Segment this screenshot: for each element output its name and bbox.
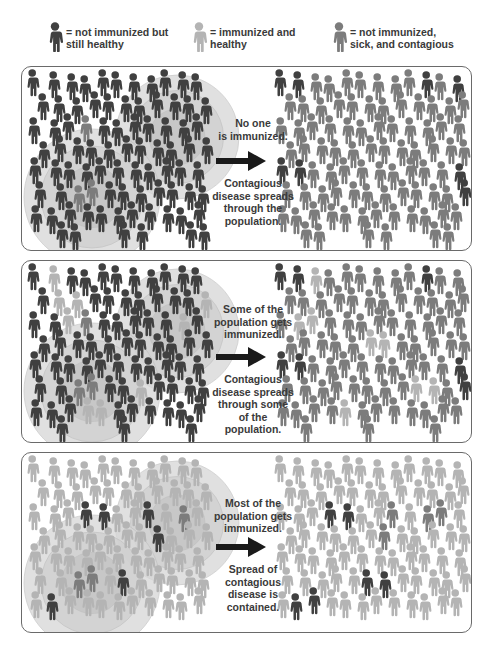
person-figure-immunized-healthy xyxy=(310,459,322,486)
person-figure-unimmunized-healthy xyxy=(27,263,39,290)
person-figure-sick xyxy=(437,395,449,422)
person-figure-unimmunized-healthy xyxy=(294,353,306,380)
person-figure-immunized-healthy xyxy=(397,565,409,592)
person-figure-sick xyxy=(435,113,447,140)
person-figure-sick xyxy=(330,373,342,400)
person-figure-immunized-healthy xyxy=(421,457,433,484)
person-figure-sick xyxy=(434,73,446,100)
legend-sick-contagious: = not immunized,sick, and contagious xyxy=(331,22,454,52)
person-figure-immunized-healthy xyxy=(434,459,446,486)
person-figure-immunized-healthy xyxy=(458,525,470,552)
person-figure-immunized-healthy xyxy=(110,457,122,484)
person-figure-immunized-healthy xyxy=(306,499,318,526)
person-figure-immunized-healthy xyxy=(457,477,469,504)
person-figure-unimmunized-healthy xyxy=(294,159,306,186)
person-figure-immunized-healthy xyxy=(330,565,342,592)
person-figure-sick xyxy=(342,311,354,338)
person-figure-immunized-healthy xyxy=(453,501,465,528)
person-figure-immunized-healthy xyxy=(356,545,368,572)
person-figure-sick xyxy=(341,263,353,290)
person-figure-unimmunized-healthy xyxy=(185,221,197,248)
person-figure-sick xyxy=(457,91,469,118)
person-figure-sick xyxy=(429,221,441,248)
person-figure-sick xyxy=(378,523,390,550)
person-figure-sick xyxy=(450,203,462,230)
person-figure-immunized-healthy xyxy=(79,461,91,488)
person-figure-immunized-healthy xyxy=(374,547,386,574)
legend-label: = not immunized, xyxy=(350,26,454,38)
person-figure-sick xyxy=(370,201,382,228)
person-figure-sick xyxy=(306,113,318,140)
person-figure-sick xyxy=(429,415,441,442)
person-figure-sick xyxy=(387,357,399,384)
person-figure-unimmunized-healthy xyxy=(185,415,197,442)
caption-line: Spread of xyxy=(212,563,294,576)
person-figure-sick xyxy=(450,397,462,424)
person-figure-sick xyxy=(333,91,345,118)
person-figure-sick xyxy=(386,501,398,528)
person-figure-immunized-healthy xyxy=(326,589,338,616)
person-figure-sick xyxy=(356,159,368,186)
caption-line: Contagious xyxy=(212,177,294,190)
caption-line: contained. xyxy=(212,601,294,614)
person-figure-sick xyxy=(395,285,407,312)
person-figure-immunized-healthy xyxy=(339,591,351,618)
person-figure-sick xyxy=(406,399,418,426)
person-figure-immunized-healthy xyxy=(310,267,322,294)
person-figure-sick xyxy=(403,69,415,96)
person-figure-sick xyxy=(308,395,320,422)
person-figure-sick xyxy=(300,415,312,442)
person-figure-sick xyxy=(397,179,409,206)
person-figure-unimmunized-healthy xyxy=(28,311,40,338)
person-figure-immunized-healthy xyxy=(294,545,306,572)
person-figure-unimmunized-healthy xyxy=(421,71,433,98)
person-figure-sick xyxy=(362,415,374,442)
person-figure-sick xyxy=(442,223,454,250)
person-figure-immunized-healthy xyxy=(341,455,353,482)
person-figure-unimmunized-healthy xyxy=(89,285,101,312)
person-figure-immunized-healthy xyxy=(373,499,385,526)
person-figure-sick xyxy=(348,181,360,208)
person-figure-sick xyxy=(418,159,430,186)
person-figure-sick xyxy=(457,285,469,312)
person-figure-immunized-healthy xyxy=(346,479,358,506)
person-figure-immunized-healthy xyxy=(37,479,49,506)
person-figure-sick xyxy=(338,351,350,378)
person-figure-sick xyxy=(397,373,409,400)
person-figure-sick xyxy=(458,333,470,360)
person-figure-immunized-healthy xyxy=(175,593,187,620)
person-figure-sick xyxy=(355,313,367,340)
person-figure-sick xyxy=(298,135,310,162)
person-figure-sick xyxy=(316,331,328,358)
person-figure-unimmunized-healthy xyxy=(102,287,114,314)
person-figure-immunized-healthy xyxy=(403,455,415,482)
person-figure-immunized-healthy xyxy=(370,587,382,614)
person-figure-immunized-healthy xyxy=(27,455,39,482)
legend-label: sick, and contagious xyxy=(350,38,454,50)
person-figure-immunized-healthy xyxy=(419,593,431,620)
person-figure-immunized-healthy xyxy=(48,265,60,292)
caption-bottom: Contagiousdisease spreadsthrough thepopu… xyxy=(212,177,294,227)
legend-label: = immunized and xyxy=(210,26,295,38)
person-figure-unimmunized-healthy xyxy=(66,267,78,294)
person-figure-unimmunized-healthy xyxy=(175,401,187,428)
person-figure-unimmunized-healthy xyxy=(175,207,187,234)
caption-line: Most of the xyxy=(212,497,294,510)
person-figure-sick xyxy=(373,307,385,334)
person-figure-sick xyxy=(300,221,312,248)
person-figure-immunized-healthy xyxy=(388,589,400,616)
person-figure-immunized-healthy xyxy=(437,587,449,614)
person-figure-immunized-healthy xyxy=(365,329,377,356)
person-figure-immunized-healthy xyxy=(48,457,60,484)
person-figure-unimmunized-healthy xyxy=(193,395,205,422)
person-figure-immunized-healthy xyxy=(89,477,101,504)
person-figure-sick xyxy=(458,139,470,166)
person-figure-unimmunized-healthy xyxy=(97,69,109,96)
person-figure-sick xyxy=(374,161,386,188)
caption-line: immunized. xyxy=(212,328,294,341)
legend: = not immunized butstill healthy = immun… xyxy=(0,18,491,62)
person-figure-immunized-healthy xyxy=(404,503,416,530)
person-figure-immunized-healthy xyxy=(274,455,286,482)
person-figure-sick xyxy=(330,179,342,206)
person-figure-immunized-healthy xyxy=(378,331,390,358)
